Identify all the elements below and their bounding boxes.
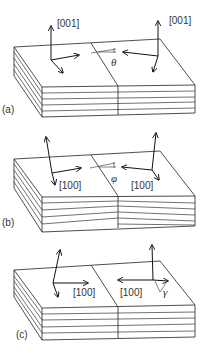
panel-c: γ [100] [100] (c): [14, 245, 195, 340]
axis-label-left: [001]: [57, 18, 79, 29]
angle-gamma: γ: [163, 286, 168, 298]
angle-phi: φ: [111, 172, 117, 184]
axis-label-right: [001]: [169, 15, 191, 26]
left-crystal-axes: [51, 26, 79, 73]
inclined-layers: [14, 164, 195, 225]
axis-label-left: [100]: [59, 180, 81, 191]
angle-theta: θ: [111, 56, 117, 68]
panel-label: (a): [2, 104, 14, 115]
panel-a: θ [001] [001] (a): [2, 15, 195, 117]
grain-boundary-diagram: θ [001] [001] (a): [0, 0, 206, 353]
slab-top-face: [14, 39, 195, 87]
grain-boundary: [91, 265, 118, 307]
panel-b: φ [100] [100] (b): [2, 133, 195, 232]
slab-top-face: [14, 261, 195, 308]
layers: [14, 52, 195, 111]
panel-label: (c): [16, 329, 28, 340]
right-crystal-axes: [122, 133, 159, 180]
left-crystal-axes: [46, 137, 81, 185]
slab-top-face: [14, 151, 195, 197]
panel-label: (b): [2, 217, 14, 228]
layers: [14, 276, 195, 333]
axis-label-right: [100]: [120, 287, 142, 298]
axis-label-right: [100]: [131, 180, 153, 191]
axis-label-left: [100]: [73, 287, 95, 298]
right-crystal-axes: [123, 21, 158, 72]
